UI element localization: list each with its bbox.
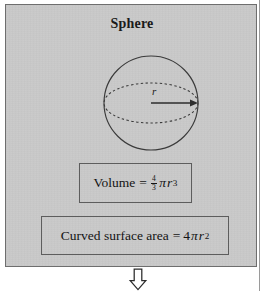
surface-area-radius-variable: r	[199, 229, 204, 243]
surface-area-pi-symbol: π	[191, 229, 198, 243]
sphere-figure-panel: Sphere r Volume = 4 3 π r 3 C	[5, 4, 257, 267]
volume-label: Volume	[94, 176, 136, 190]
flow-arrow-down-icon	[127, 268, 149, 291]
surface-area-formula-box: Curved surface area = 4 π r 2	[41, 216, 229, 255]
surface-area-formula: Curved surface area = 4 π r 2	[61, 229, 209, 243]
volume-radius-variable: r	[167, 176, 172, 190]
surface-area-equals-sign: =	[173, 229, 181, 243]
page-edge-rule	[259, 0, 260, 291]
volume-fraction-denominator: 3	[151, 183, 157, 192]
volume-formula: Volume = 4 3 π r 3	[94, 175, 178, 191]
surface-area-label: Curved surface area	[61, 229, 169, 243]
sphere-diagram: r	[94, 47, 206, 159]
surface-area-coefficient: 4	[183, 229, 190, 243]
page-title: Sphere	[6, 16, 258, 32]
volume-equals-sign: =	[139, 176, 147, 190]
volume-fraction: 4 3	[151, 175, 157, 191]
radius-arrow-head	[190, 99, 198, 106]
radius-label: r	[152, 85, 156, 97]
volume-fraction-numerator: 4	[151, 175, 157, 183]
volume-formula-box: Volume = 4 3 π r 3	[79, 163, 192, 203]
volume-pi-symbol: π	[159, 176, 166, 190]
